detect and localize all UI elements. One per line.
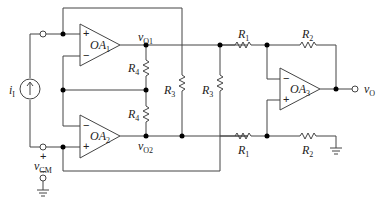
r1-bottom-label: R1 [238, 144, 249, 159]
vo2-label: vO2 [138, 140, 153, 155]
r3-left-label: R3 [164, 84, 175, 99]
resistor-r4-top [143, 45, 149, 90]
r4-bottom-label: R4 [128, 108, 139, 123]
resistor-r3-left [179, 75, 185, 136]
oa1-label: OA1 [90, 39, 110, 54]
resistor-r1-bottom [220, 133, 267, 139]
r3-right-label: R3 [202, 84, 213, 99]
output-terminal [352, 86, 358, 92]
current-source-icon [20, 79, 40, 99]
oa2-label: OA2 [90, 130, 110, 145]
input-terminal-top [40, 31, 46, 37]
circuit-diagram: OA1 OA2 OA3 + − − + − + + − vO1 vO2 vO v… [0, 0, 380, 209]
oa2-minus: − [83, 120, 89, 131]
ii-label: iI [9, 84, 15, 99]
oa3-minus: − [283, 73, 289, 84]
circuit-schematic [0, 0, 380, 209]
ground-icon [37, 181, 49, 196]
oa3-label: OA3 [290, 83, 310, 98]
vo1-label: vO1 [138, 31, 153, 46]
resistor-r4-bottom [143, 90, 149, 136]
r1-top-label: R1 [238, 28, 249, 43]
oa2-plus: + [83, 141, 89, 152]
vcm-label: vCM [34, 160, 52, 175]
oa1-plus: + [83, 28, 89, 39]
resistor-r3-right [217, 45, 223, 96]
r4-top-label: R4 [128, 62, 139, 77]
oa3-plus: + [283, 94, 289, 105]
oa1-minus: − [83, 50, 89, 61]
r2-bottom-label: R2 [302, 144, 313, 159]
vo-label: vO [364, 83, 375, 98]
r2-top-label: R2 [302, 28, 313, 43]
